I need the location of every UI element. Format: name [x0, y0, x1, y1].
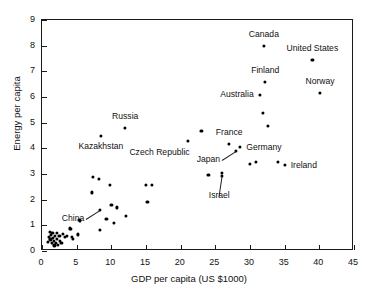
- data-point: [108, 183, 111, 186]
- x-tick: [250, 245, 251, 250]
- y-tick: [42, 225, 47, 226]
- x-tick: [111, 245, 112, 250]
- point-label-czech-republic: Czech Republic: [129, 148, 189, 157]
- data-point: [200, 129, 203, 132]
- x-tick-label: 30: [244, 258, 254, 267]
- y-tick-label: 4: [19, 143, 35, 152]
- x-tick-label: 40: [313, 258, 323, 267]
- data-point: [262, 111, 265, 114]
- point-label-france: France: [216, 128, 243, 137]
- x-tick: [215, 245, 216, 250]
- y-tick-label: 6: [19, 92, 35, 101]
- data-point: [151, 183, 154, 186]
- y-tick-label: 5: [19, 117, 35, 126]
- x-tick: [181, 245, 182, 250]
- point-label-ireland: Ireland: [291, 161, 317, 170]
- data-point-kazakhstan: [99, 134, 102, 137]
- y-tick: [42, 200, 47, 201]
- x-tick: [319, 245, 320, 250]
- y-tick: [42, 97, 47, 98]
- data-point-russia: [124, 126, 127, 129]
- data-point-germany: [239, 145, 242, 148]
- point-label-australia: Australia: [220, 90, 253, 99]
- y-tick-label: 9: [19, 15, 35, 24]
- y-tick: [42, 148, 47, 149]
- x-tick-label: 15: [140, 258, 150, 267]
- scatter-chart-figure: Energy per capita GDP per capita (US $10…: [0, 0, 378, 296]
- data-point: [70, 228, 73, 231]
- y-tick-label: 1: [19, 220, 35, 229]
- data-point-norway: [318, 92, 321, 95]
- point-label-japan: Japan: [197, 155, 220, 164]
- y-tick: [42, 251, 47, 252]
- y-tick-label: 0: [19, 246, 35, 255]
- data-point: [113, 221, 116, 224]
- data-point: [146, 201, 149, 204]
- x-tick: [354, 245, 355, 250]
- x-tick: [146, 245, 147, 250]
- x-tick-label: 45: [348, 258, 358, 267]
- data-point-ireland: [283, 163, 286, 166]
- data-point: [58, 235, 61, 238]
- data-point: [105, 217, 108, 220]
- data-point-finland: [264, 81, 267, 84]
- leader-line-japan: [222, 151, 236, 161]
- data-point: [144, 183, 147, 186]
- y-tick-label: 7: [19, 66, 35, 75]
- point-label-norway: Norway: [305, 77, 334, 86]
- data-point: [266, 124, 269, 127]
- y-tick: [42, 123, 47, 124]
- data-point: [65, 234, 68, 237]
- data-point-australia: [258, 93, 261, 96]
- data-point: [60, 242, 63, 245]
- data-point: [207, 173, 210, 176]
- data-point: [97, 178, 100, 181]
- data-point: [72, 237, 75, 240]
- x-tick: [285, 245, 286, 250]
- point-label-united-states: United States: [287, 44, 339, 53]
- data-point: [76, 233, 79, 236]
- y-tick: [42, 46, 47, 47]
- plot-area: CanadaUnited StatesFinlandNorwayAustrali…: [41, 19, 353, 250]
- x-tick-label: 10: [105, 258, 115, 267]
- point-label-canada: Canada: [249, 30, 279, 39]
- x-axis-label: GDP per capita (US $1000): [0, 273, 378, 284]
- point-label-russia: Russia: [112, 112, 138, 121]
- data-point-czech-republic: [186, 139, 189, 142]
- data-point: [248, 163, 251, 166]
- data-point: [221, 171, 224, 174]
- x-tick-label: 5: [73, 258, 78, 267]
- data-point: [92, 175, 95, 178]
- data-point: [98, 228, 101, 231]
- x-tick-label: 35: [279, 258, 289, 267]
- point-label-china: China: [62, 214, 84, 223]
- y-tick: [42, 174, 47, 175]
- point-label-kazakhstan: Kazakhstan: [78, 142, 123, 151]
- leader-line-china: [86, 210, 100, 220]
- y-tick-label: 2: [19, 194, 35, 203]
- y-tick: [42, 71, 47, 72]
- data-point-france: [228, 142, 231, 145]
- data-point: [46, 240, 49, 243]
- x-tick-label: 25: [209, 258, 219, 267]
- data-point: [124, 214, 127, 217]
- x-tick: [42, 245, 43, 250]
- data-point-canada: [262, 45, 265, 48]
- x-tick: [77, 245, 78, 250]
- y-tick-label: 8: [19, 40, 35, 49]
- data-point: [115, 206, 118, 209]
- y-tick: [42, 20, 47, 21]
- data-point-united-states: [311, 58, 314, 61]
- y-tick-label: 3: [19, 169, 35, 178]
- data-point: [255, 160, 258, 163]
- point-label-germany: Germany: [246, 143, 281, 152]
- point-label-finland: Finland: [251, 66, 279, 75]
- data-point: [90, 191, 93, 194]
- data-point: [276, 160, 279, 163]
- data-point: [110, 203, 113, 206]
- x-tick-label: 0: [38, 258, 43, 267]
- x-tick-label: 20: [175, 258, 185, 267]
